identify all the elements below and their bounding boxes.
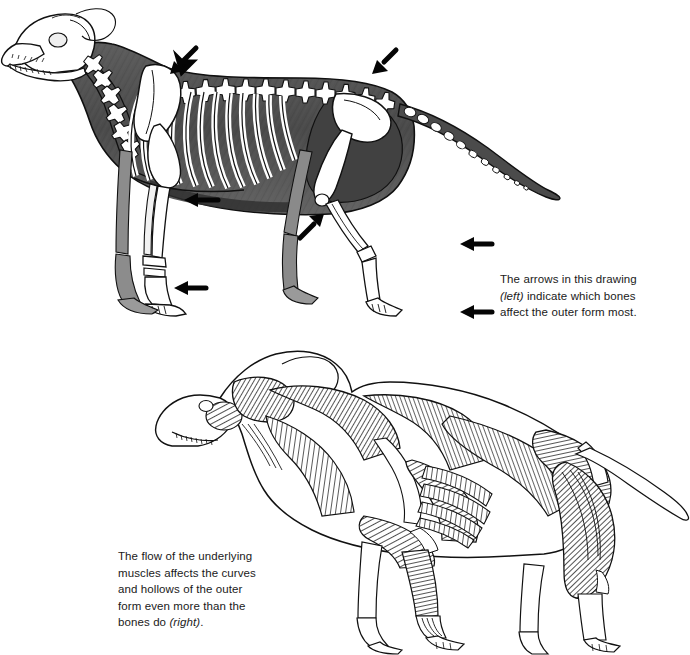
arrow-pelvis-crest xyxy=(372,50,396,74)
caption-muscles-right-italic: (right) xyxy=(169,616,200,628)
dog-skeleton-drawing xyxy=(0,0,570,340)
caption-muscles-period: . xyxy=(200,616,203,628)
caption-muscles-line2: muscles affects the curves xyxy=(118,567,256,579)
arrow-stifle xyxy=(300,214,324,238)
caption-arrows-left-italic: (left) xyxy=(500,290,524,302)
caption-arrows-line2: indicate which bones xyxy=(524,290,636,302)
caption-arrows: The arrows in this drawing(left) indicat… xyxy=(500,271,680,321)
caption-muscles-line1: The flow of the underlying xyxy=(118,550,252,562)
muscle-front-legs xyxy=(357,542,464,654)
arrow-rear-paw xyxy=(460,305,492,319)
skeleton-tail xyxy=(398,104,560,200)
caption-arrows-line1: The arrows in this drawing xyxy=(500,273,637,285)
caption-muscles: The flow of the underlyingmuscles affect… xyxy=(118,548,303,631)
arrow-carpus xyxy=(174,281,206,295)
illustration-page: The arrows in this drawing(left) indicat… xyxy=(0,0,690,655)
caption-muscles-line4: form even more than the xyxy=(118,600,246,612)
caption-arrows-line3: affect the outer form most. xyxy=(500,306,637,318)
arrow-withers xyxy=(170,48,196,74)
arrow-hock xyxy=(460,237,492,251)
skeleton-front-leg xyxy=(115,124,186,316)
caption-muscles-line5: bones do xyxy=(118,616,169,628)
caption-muscles-line3: and hollows of the outer xyxy=(118,583,243,595)
